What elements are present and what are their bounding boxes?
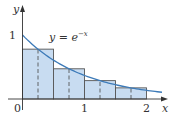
y-tick-1: 1 [9, 29, 16, 42]
x-axis-label: x [162, 102, 169, 115]
y-axis-label: y [12, 3, 20, 16]
y-axis-arrow-icon [20, 5, 25, 12]
x-axis-arrow-icon [161, 97, 168, 102]
riemann-diagram: y x 0 1 2 1 y = e−x [0, 0, 173, 118]
x-tick-0: 0 [14, 102, 21, 115]
midpoint-rectangles [23, 49, 147, 99]
x-tick-2: 2 [143, 102, 150, 115]
curve-label: y = e−x [48, 30, 88, 44]
x-tick-1: 1 [81, 102, 88, 115]
